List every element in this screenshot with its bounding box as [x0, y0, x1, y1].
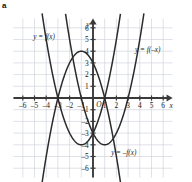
y-tick-label: 5: [85, 35, 89, 44]
axes: [13, 18, 172, 177]
x-tick-label: 1: [103, 101, 107, 110]
panel-letter: a: [2, 1, 6, 10]
x-tick-label: –5: [30, 101, 39, 110]
y-tick-label: –6: [80, 164, 89, 173]
x-tick-label: 4: [138, 101, 142, 110]
curve-label: y = f(–x): [134, 46, 161, 54]
x-tick-label: –6: [18, 101, 27, 110]
curve-label: y = f(x): [32, 33, 55, 41]
y-tick-label: –3: [80, 129, 89, 138]
y-tick-label: –2: [80, 117, 89, 126]
y-tick-label: 2: [85, 70, 89, 79]
y-tick-label: 1: [85, 82, 89, 91]
y-tick-label: –5: [80, 152, 89, 161]
x-axis-label: x: [168, 101, 173, 110]
x-tick-label: 2: [115, 101, 119, 110]
y-tick-label: 3: [85, 59, 89, 68]
y-axis-label: y: [85, 20, 90, 29]
y-tick-label: –4: [80, 141, 89, 150]
x-tick-label: 3: [126, 101, 130, 110]
y-tick-label: 4: [85, 47, 89, 56]
x-tick-label: 6: [161, 101, 165, 110]
figure-panel: a –6–5–4–3–2–1123456654321–1–2–3–4–5–6xy…: [0, 0, 192, 182]
x-tick-label: –4: [42, 101, 51, 110]
x-tick-label: –2: [65, 101, 74, 110]
coordinate-plot: –6–5–4–3–2–1123456654321–1–2–3–4–5–6xyO …: [0, 0, 192, 182]
y-tick-label: –1: [80, 105, 89, 114]
curve-label: y = –f(x): [110, 149, 137, 157]
x-tick-label: 5: [150, 101, 154, 110]
x-tick-label: –3: [53, 101, 62, 110]
tick-labels: –6–5–4–3–2–1123456654321–1–2–3–4–5–6xyO: [18, 20, 173, 173]
origin-label: O: [96, 100, 102, 109]
